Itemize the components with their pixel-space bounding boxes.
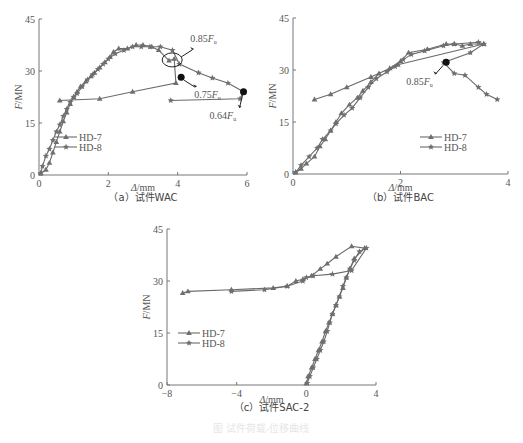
y-tick-label: 15 <box>279 117 289 128</box>
x-tick-label: −8 <box>162 388 173 399</box>
y-tick-label: 45 <box>25 14 35 25</box>
annotation-label: 0.75Fu <box>194 89 221 101</box>
star-marker-icon <box>329 271 335 277</box>
x-tick-label: 0 <box>291 177 296 188</box>
arrow-head-icon <box>190 47 194 50</box>
y-tick-label: 45 <box>279 13 289 24</box>
y-tick-label: 45 <box>153 224 163 235</box>
x-tick-label: 4 <box>175 178 180 189</box>
star-marker-icon <box>43 153 49 159</box>
triangle-marker-icon <box>47 160 53 165</box>
annotation-label: 0.85Fu <box>406 76 433 88</box>
chart-caption: （b）试件BAC <box>367 191 434 203</box>
x-tick-label: −4 <box>231 388 242 399</box>
star-marker-icon <box>494 96 500 102</box>
star-marker-icon <box>209 75 215 81</box>
x-tick-label: 6 <box>245 178 250 189</box>
series-line-hd-7 <box>296 44 484 172</box>
series-line-hd-8 <box>231 248 366 383</box>
star-marker-icon <box>186 340 192 346</box>
y-tick-label: 30 <box>25 66 35 77</box>
annotation-label: 0.64Fu <box>210 110 237 122</box>
star-marker-icon <box>351 257 357 263</box>
key-point-marker <box>178 74 185 81</box>
star-marker-icon <box>195 69 201 75</box>
triangle-marker-icon <box>333 254 339 259</box>
triangle-marker-icon <box>312 154 318 159</box>
legend-label: HD-8 <box>444 142 467 153</box>
y-axis-label: F/MN <box>13 84 24 110</box>
annotation-label: 0.85Fu <box>190 33 217 45</box>
series-line-hd-7 <box>183 246 365 383</box>
chart-bac: 0240153045F/MNΔ/mm（b）试件BACHD-7HD-80.85Fu <box>267 13 511 204</box>
chart-wac: 02460153045F/MNΔ/mm（a）试件WACHD-7HD-80.85F… <box>13 14 250 204</box>
legend-label: HD-8 <box>202 338 225 349</box>
x-tick-label: 0 <box>37 178 42 189</box>
series-line-hd-8 <box>296 42 498 172</box>
y-tick-label: 15 <box>153 328 163 339</box>
triangle-marker-icon <box>349 243 355 248</box>
legend-label: HD-8 <box>79 142 102 153</box>
star-marker-icon <box>46 146 52 152</box>
key-point-marker <box>240 88 247 95</box>
figure-canvas: 02460153045F/MNΔ/mm（a）试件WACHD-7HD-80.85F… <box>0 0 523 443</box>
star-marker-icon <box>467 49 473 55</box>
y-tick-label: 0 <box>158 380 163 391</box>
chart-caption: （c）试件SAC-2 <box>234 401 310 413</box>
y-tick-label: 0 <box>30 170 35 181</box>
x-tick-label: 0 <box>304 388 309 399</box>
star-marker-icon <box>228 288 234 294</box>
star-marker-icon <box>169 47 175 53</box>
triangle-marker-icon <box>317 266 323 271</box>
triangle-marker-icon <box>173 80 179 85</box>
y-axis-label: F/MN <box>267 83 278 109</box>
x-tick-label: 2 <box>106 178 111 189</box>
x-tick-label: 4 <box>374 388 379 399</box>
key-point-marker <box>443 59 450 66</box>
y-tick-label: 30 <box>153 276 163 287</box>
y-axis-label: F/MN <box>141 294 152 320</box>
y-tick-label: 15 <box>25 118 35 129</box>
chart-caption: （a）试件WAC <box>108 191 177 203</box>
star-marker-icon <box>261 286 267 292</box>
figure-caption: 图 试件荷载-位移曲线 <box>213 422 310 434</box>
x-tick-label: 4 <box>506 177 511 188</box>
arrow-head-icon <box>238 105 242 108</box>
y-tick-label: 30 <box>279 65 289 76</box>
star-marker-icon <box>428 144 434 150</box>
series-line-hd-7 <box>41 45 176 173</box>
y-tick-label: 0 <box>284 169 289 180</box>
star-marker-icon <box>63 144 69 150</box>
star-marker-icon <box>168 97 174 103</box>
chart-sac-2: −8−4040153045F/MNΔ/mm（c）试件SAC-2HD-7HD-8 <box>141 224 379 414</box>
